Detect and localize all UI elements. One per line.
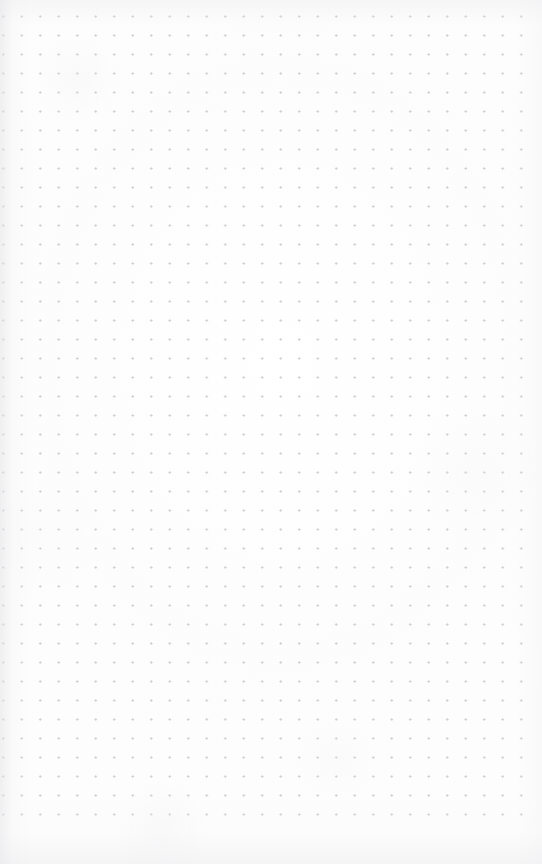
page-content-area[interactable] bbox=[31, 26, 512, 818]
notebook-page bbox=[0, 0, 542, 864]
